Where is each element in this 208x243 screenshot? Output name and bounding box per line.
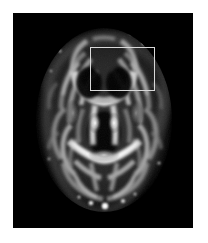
figure-root: Axial brain FA map with ROI <box>0 0 208 243</box>
figure-caption <box>0 0 1 1</box>
roi-rectangle[interactable] <box>90 47 155 91</box>
brain-scan-image <box>13 13 193 228</box>
roi-label <box>0 0 1 1</box>
brain-scan-panel <box>13 13 193 228</box>
figure-title: Axial brain FA map with ROI <box>0 0 1 1</box>
